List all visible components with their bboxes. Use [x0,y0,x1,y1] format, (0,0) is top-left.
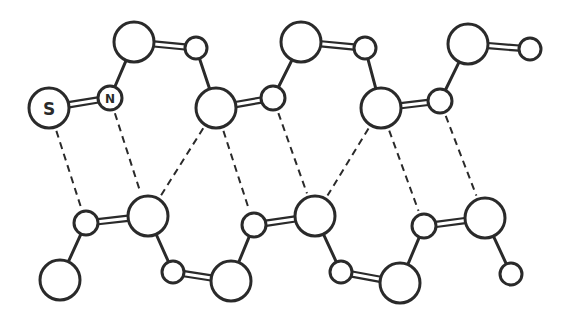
double-bond-t1-t2 [154,41,186,49]
atom-t6 [354,37,376,59]
atom-label: S [43,99,55,119]
atom-b9 [412,214,436,238]
single-bond-t6-t7 [368,59,376,89]
atom-t2 [185,37,207,59]
atom-n: N [98,86,122,110]
molecular-chain-diagram: SN [0,0,569,321]
atom-t8 [428,89,452,113]
atom-label: N [105,92,115,106]
double-bond-b5-b6 [265,216,295,225]
hydrogen-bond-t3-b2 [161,128,203,195]
hydrogen-bond-S-b1 [56,131,81,208]
single-bond-t2-t3 [199,58,209,89]
atom-t5 [281,22,321,62]
double-bond-t7-t8 [401,100,429,108]
atom-b4 [211,261,251,301]
atom-t10 [519,38,541,60]
hydrogen-bond-t4-b6 [278,113,307,193]
hydrogen-bond-t7-b9 [389,131,418,211]
atom-b0 [40,260,80,300]
hydrogen-bond-N-b2 [115,113,141,193]
single-bond-b0-b1 [68,234,81,262]
double-bond-b1-b2 [98,216,129,225]
single-bond-t8-t9 [445,62,459,90]
single-bond-b6-b7 [323,234,336,262]
atom-t4 [261,86,285,110]
atom-b2 [128,196,168,236]
atom-b5 [242,213,266,237]
double-bond-b7-b8 [351,271,380,281]
atom-t9 [448,24,488,64]
atom-b1 [74,211,98,235]
double-bond-t5-t6 [321,41,355,49]
single-bond-b8-b9 [408,237,420,265]
atom-s: S [29,88,69,128]
double-bond-t3-t4 [235,98,261,108]
single-bond-N-t1 [115,60,126,87]
atom-b8 [380,263,420,303]
double-bond-b3-b4 [183,271,211,280]
single-bond-b2-b3 [156,234,168,262]
double-bond-b9-b10 [436,218,466,227]
double-bond-t9-t10 [488,43,520,51]
single-bond-b4-b5 [239,236,250,262]
atom-b6 [295,196,335,236]
double-bond-S-N [68,97,98,107]
hydrogen-bond-t3-b5 [223,131,249,210]
hydrogen-bond-t8-b10 [446,116,477,196]
hydrogen-bond-t7-b6 [328,128,369,195]
atom-b11 [500,263,522,285]
atom-b3 [162,261,184,283]
atom-t1 [114,22,154,62]
single-bond-t4-t5 [278,60,292,87]
atom-t3 [196,88,236,128]
atom-t7 [361,88,401,128]
atom-b10 [465,198,505,238]
single-bond-b10-b11 [493,236,506,264]
hydrogen-bond-lines [56,113,476,211]
covalent-bonds [68,41,519,282]
atom-b7 [330,261,352,283]
